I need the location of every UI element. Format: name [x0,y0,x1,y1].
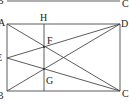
top-label-b: B [0,0,4,6]
geometry-figure: B C A H D F E G B C [0,0,129,109]
label-a: A [0,17,6,28]
label-e: E [0,52,2,63]
point-g-dot [43,68,45,70]
label-g: G [46,75,53,86]
segment-ed [7,24,120,58]
point-f-dot [43,46,45,48]
label-c: C [122,88,129,99]
label-b: B [0,90,4,101]
label-f: F [47,35,53,46]
segment-ec [7,58,120,91]
label-d: D [121,18,128,29]
label-h: H [40,12,47,23]
top-label-c: C [122,0,129,9]
